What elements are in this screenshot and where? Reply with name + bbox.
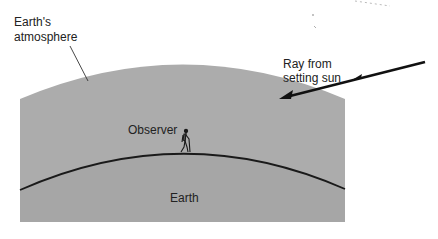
atmosphere-label-line2: atmosphere bbox=[14, 30, 77, 44]
ray-label-line1: Ray from bbox=[283, 57, 332, 71]
observer-label: Observer bbox=[128, 123, 177, 137]
dot-artifact bbox=[314, 26, 316, 28]
atmosphere-leader-line bbox=[70, 46, 88, 81]
dashed-artifact bbox=[355, 1, 390, 6]
ray-label-line2: setting sun bbox=[283, 71, 341, 85]
earth-label: Earth bbox=[170, 191, 199, 205]
dot-artifact bbox=[312, 14, 314, 16]
atmosphere-label-line1: Earth's bbox=[14, 15, 51, 29]
